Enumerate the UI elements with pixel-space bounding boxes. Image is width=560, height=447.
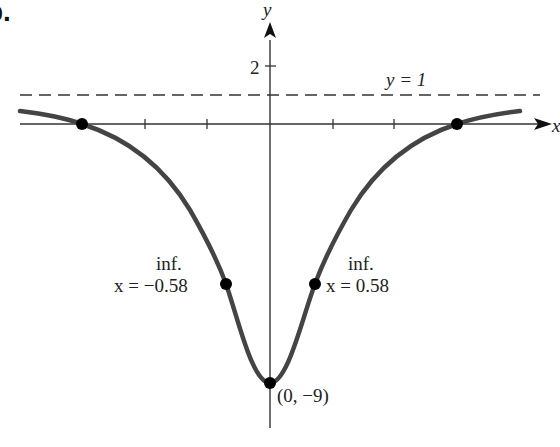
inflection-left-point bbox=[220, 278, 232, 290]
graph bbox=[0, 0, 560, 447]
right-inflection-title: inf. bbox=[348, 254, 374, 273]
y-tick-label: 2 bbox=[250, 58, 260, 77]
y-axis-label: y bbox=[263, 0, 271, 19]
y-axis-arrow-icon bbox=[264, 22, 276, 38]
zero-left-point bbox=[76, 118, 88, 130]
inflection-right-point bbox=[309, 278, 321, 290]
left-inflection-title: inf. bbox=[156, 254, 182, 273]
minimum-point bbox=[264, 377, 276, 389]
minimum-label: (0, −9) bbox=[277, 386, 329, 405]
x-axis-label: x bbox=[552, 116, 560, 135]
asymptote-label: y = 1 bbox=[386, 70, 426, 89]
left-inflection-value: x = −0.58 bbox=[114, 276, 188, 295]
right-inflection-value: x = 0.58 bbox=[326, 276, 389, 295]
zero-right-point bbox=[451, 118, 463, 130]
